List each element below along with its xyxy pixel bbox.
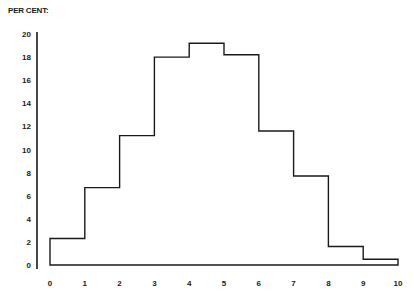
- y-tick-label: 18: [22, 53, 31, 62]
- x-tick-label: 1: [83, 279, 88, 288]
- x-tick-label: 5: [222, 279, 227, 288]
- x-tick-label: 0: [48, 279, 53, 288]
- y-tick-label: 6: [27, 192, 32, 201]
- y-tick-label: 8: [27, 169, 32, 178]
- histogram-outline: [50, 43, 398, 265]
- y-tick-label: 14: [22, 99, 31, 108]
- y-tick-label: 10: [22, 146, 31, 155]
- x-tick-label: 8: [326, 279, 331, 288]
- y-tick-label: 20: [22, 30, 31, 39]
- histogram-chart: 02468101214161820 012345678910: [0, 0, 414, 303]
- x-tick-label: 9: [361, 279, 366, 288]
- y-tick-label: 16: [22, 76, 31, 85]
- x-tick-labels: 012345678910: [48, 279, 403, 288]
- y-tick-label: 2: [27, 238, 32, 247]
- x-tick-label: 10: [394, 279, 403, 288]
- y-tick-label: 0: [27, 261, 32, 270]
- y-tick-label: 12: [22, 122, 31, 131]
- x-tick-label: 2: [117, 279, 122, 288]
- y-tick-label: 4: [27, 215, 32, 224]
- x-tick-label: 4: [187, 279, 192, 288]
- y-tick-labels: 02468101214161820: [22, 30, 31, 270]
- x-tick-label: 7: [291, 279, 296, 288]
- x-tick-label: 6: [257, 279, 262, 288]
- x-tick-label: 3: [152, 279, 157, 288]
